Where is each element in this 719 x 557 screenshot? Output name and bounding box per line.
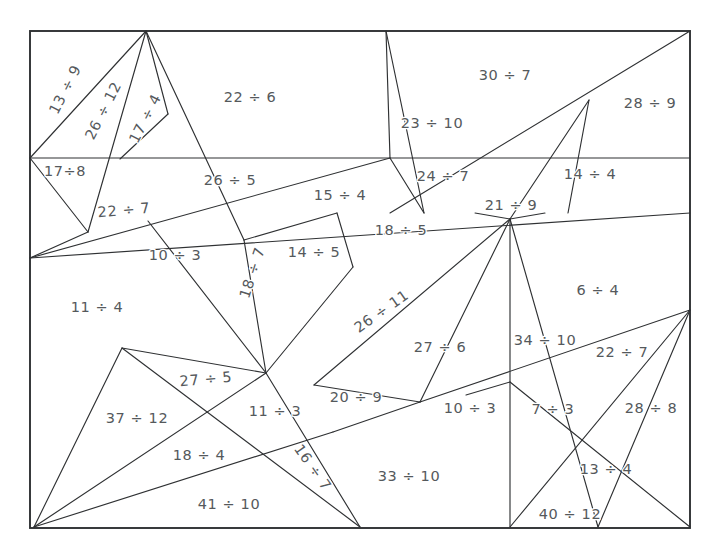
region-label-r18: 14 ÷ 5 bbox=[288, 244, 341, 260]
region-label-r29: 10 ÷ 3 bbox=[444, 400, 497, 416]
region-label-r21: 6 ÷ 4 bbox=[577, 282, 620, 298]
region-label-r15: 18 ÷ 5 bbox=[375, 222, 428, 238]
region-label-r14: 21 ÷ 9 bbox=[485, 197, 538, 213]
puzzle-divider-line bbox=[475, 213, 510, 219]
puzzle-divider-line bbox=[510, 213, 545, 219]
puzzle-divider-line bbox=[146, 31, 244, 240]
puzzle-frame bbox=[30, 31, 690, 528]
puzzle-lines-group bbox=[30, 31, 690, 527]
region-label-r35: 13 ÷ 4 bbox=[580, 461, 633, 477]
region-label-r16: 10 ÷ 3 bbox=[149, 247, 202, 263]
region-label-r13: 14 ÷ 4 bbox=[564, 166, 617, 182]
region-label-r27: 11 ÷ 3 bbox=[249, 403, 302, 419]
region-label-r17: 18 ÷ 7 bbox=[236, 245, 267, 300]
region-label-r31: 28 ÷ 8 bbox=[625, 400, 678, 416]
puzzle-divider-line bbox=[568, 100, 589, 213]
region-label-r03: 17 ÷ 4 bbox=[126, 91, 164, 145]
region-label-r36: 41 ÷ 10 bbox=[198, 496, 260, 512]
puzzle-divider-line bbox=[244, 213, 337, 240]
puzzle-divider-line bbox=[333, 402, 420, 432]
region-label-r25: 27 ÷ 5 bbox=[179, 369, 233, 390]
region-label-r32: 18 ÷ 4 bbox=[173, 447, 226, 463]
puzzle-divider-line bbox=[122, 348, 266, 373]
region-label-r12: 24 ÷ 7 bbox=[417, 168, 470, 184]
region-label-r10: 26 ÷ 5 bbox=[204, 172, 257, 188]
region-label-r02: 26 ÷ 12 bbox=[82, 79, 125, 142]
region-label-r28: 20 ÷ 9 bbox=[330, 389, 383, 405]
region-label-r26: 37 ÷ 12 bbox=[106, 410, 168, 426]
region-label-r34: 33 ÷ 10 bbox=[378, 468, 440, 484]
region-label-r37: 40 ÷ 12 bbox=[539, 506, 601, 522]
region-label-r11: 15 ÷ 4 bbox=[314, 187, 367, 203]
region-label-r22: 27 ÷ 6 bbox=[414, 339, 467, 355]
puzzle-divider-line bbox=[510, 219, 598, 527]
puzzle-divider-line bbox=[390, 158, 424, 213]
puzzle-divider-line bbox=[420, 219, 510, 402]
puzzle-divider-line bbox=[266, 267, 353, 373]
puzzle-divider-line bbox=[314, 219, 510, 385]
division-puzzle-page: 13 ÷ 926 ÷ 1217 ÷ 417÷822 ÷ 623 ÷ 1030 ÷… bbox=[0, 0, 719, 557]
puzzle-divider-line bbox=[30, 213, 690, 258]
region-label-r30: 7 ÷ 3 bbox=[532, 401, 575, 417]
region-label-r08: 28 ÷ 9 bbox=[624, 95, 677, 111]
region-label-r01: 13 ÷ 9 bbox=[46, 62, 84, 116]
region-label-r04: 17÷8 bbox=[44, 163, 86, 179]
puzzle-divider-line bbox=[34, 348, 122, 527]
region-label-r24: 22 ÷ 7 bbox=[596, 344, 649, 360]
region-label-r07: 30 ÷ 7 bbox=[479, 67, 532, 83]
puzzle-canvas: 13 ÷ 926 ÷ 1217 ÷ 417÷822 ÷ 623 ÷ 1030 ÷… bbox=[0, 0, 719, 557]
region-label-r05: 22 ÷ 6 bbox=[224, 89, 277, 105]
puzzle-labels-group: 13 ÷ 926 ÷ 1217 ÷ 417÷822 ÷ 623 ÷ 1030 ÷… bbox=[44, 62, 677, 522]
region-label-r06: 23 ÷ 10 bbox=[401, 115, 463, 131]
region-label-r23: 34 ÷ 10 bbox=[514, 332, 576, 348]
region-label-r19: 11 ÷ 4 bbox=[71, 299, 124, 315]
puzzle-divider-line bbox=[598, 310, 690, 527]
puzzle-divider-line bbox=[420, 310, 690, 402]
region-label-r09: 22 ÷ 7 bbox=[97, 200, 151, 221]
